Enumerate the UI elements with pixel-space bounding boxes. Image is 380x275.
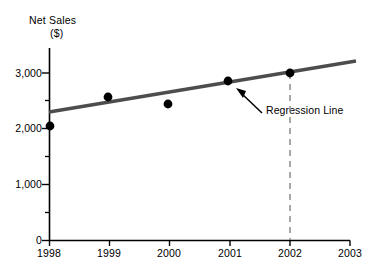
data-point-1999 bbox=[104, 93, 113, 102]
regression-line bbox=[49, 61, 356, 112]
data-point-1998 bbox=[46, 122, 55, 131]
regression-line-annotation-arrow bbox=[236, 88, 262, 113]
data-point-2001 bbox=[224, 77, 233, 86]
data-point-2002 bbox=[286, 69, 295, 78]
data-point-2000 bbox=[164, 100, 173, 109]
chart-figure: Net Sales ($) 0 1,000 2,000 3,000 1998 1… bbox=[0, 0, 380, 275]
plot-area bbox=[0, 0, 380, 275]
